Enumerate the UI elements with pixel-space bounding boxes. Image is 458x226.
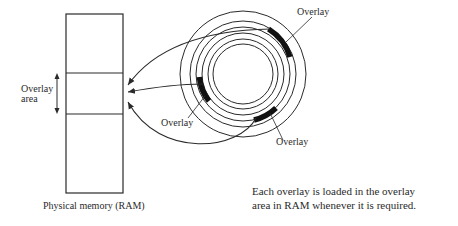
overlay-label-lower: Overlay xyxy=(276,136,308,147)
disk-track-3 xyxy=(196,27,290,121)
disk-track-5 xyxy=(208,39,278,109)
caption-line2: area in RAM whenever it is required. xyxy=(252,199,416,211)
overlay-label-upper: Overlay xyxy=(297,6,329,17)
disk-track-1 xyxy=(180,11,306,137)
ram-caption: Physical memory (RAM) xyxy=(43,200,145,212)
disk xyxy=(180,11,306,137)
overlay-diagram: Overlay area Physical memory (RAM) Overl… xyxy=(0,0,458,226)
overlay-area-label-line2: area xyxy=(21,93,38,104)
ram-block xyxy=(66,14,123,193)
overlay-block-upper-right xyxy=(269,29,291,57)
caption-line1: Each overlay is loaded in the overlay xyxy=(252,185,416,197)
overlay-label-left: Overlay xyxy=(161,117,193,128)
overlay-area-span-arrow xyxy=(55,73,60,114)
disk-track-4 xyxy=(202,33,284,115)
disk-track-6 xyxy=(213,44,273,104)
